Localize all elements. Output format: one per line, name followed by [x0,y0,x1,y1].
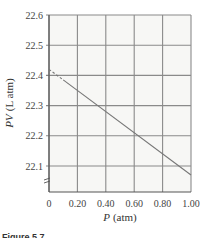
x-axis-label: P(atm) [102,211,137,224]
x-tick-label: 0.20 [69,198,87,209]
y-tick-label: 22.1 [26,161,44,172]
x-tick-label: 0.60 [125,198,143,209]
figure-caption: Figure 5.7 [2,233,45,238]
chart: 22.122.222.322.422.522.600.200.400.600.8… [0,0,211,238]
x-tick-label: 1.00 [182,198,200,209]
y-tick-label: 22.5 [26,40,44,51]
y-tick-label: 22.3 [26,100,44,111]
y-tick-label: 22.4 [26,70,44,81]
y-axis-label: PV(L atm) [3,78,16,129]
grid [46,15,191,192]
x-tick-label: 0.40 [97,198,115,209]
x-tick-label: 0 [47,198,52,209]
y-tick-label: 22.6 [26,10,44,21]
x-tick-label: 0.80 [154,198,172,209]
y-tick-label: 22.2 [26,130,44,141]
